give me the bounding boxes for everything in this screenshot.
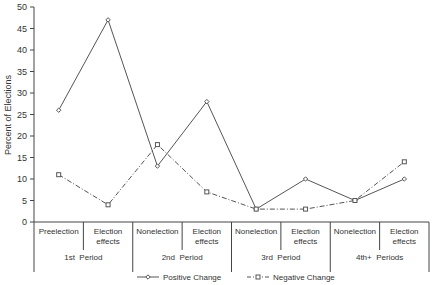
data-point (205, 190, 209, 194)
y-tick-label: 25 (17, 110, 27, 120)
y-tick-label: 35 (17, 67, 27, 77)
data-point (402, 177, 406, 181)
data-point (57, 173, 61, 177)
series-positive-change (56, 18, 406, 212)
legend-item: Positive Change (137, 273, 222, 282)
y-tick-label: 20 (17, 131, 27, 141)
x-tick-label: Nonelection (136, 227, 178, 236)
y-ticks: 05101520253035404550 (17, 2, 34, 227)
legend-label: Negative Change (273, 273, 335, 282)
line-chart: 05101520253035404550 Percent of Election… (0, 0, 432, 285)
data-point (254, 207, 258, 211)
series-negative-change (57, 143, 407, 212)
data-point (303, 177, 307, 181)
series (56, 18, 406, 212)
y-tick-label: 5 (22, 196, 27, 206)
data-point (106, 18, 110, 22)
x-tick-label: effects (195, 237, 218, 246)
data-point (106, 203, 110, 207)
y-tick-label: 0 (22, 217, 27, 227)
axes (34, 7, 429, 222)
legend-item: Negative Change (247, 273, 335, 282)
x-tick-label: Election (193, 227, 221, 236)
y-tick-label: 15 (17, 153, 27, 163)
x-tick-label: Nonelection (334, 227, 376, 236)
data-point (304, 207, 308, 211)
x-tick-label: Election (94, 227, 122, 236)
x-tick-label: effects (393, 237, 416, 246)
y-tick-label: 45 (17, 24, 27, 34)
y-tick-label: 10 (17, 174, 27, 184)
group-label: 2nd Period (162, 253, 203, 262)
x-tick-label: Nonelection (235, 227, 277, 236)
y-tick-label: 40 (17, 45, 27, 55)
series-line (59, 20, 405, 209)
legend: Positive ChangeNegative Change (137, 273, 335, 282)
x-tick-label: Election (390, 227, 418, 236)
data-point (155, 143, 159, 147)
x-tick-label: Preelection (39, 227, 79, 236)
x-tick-label: Election (291, 227, 319, 236)
y-tick-label: 50 (17, 2, 27, 12)
x-tick-label: effects (294, 237, 317, 246)
x-categories: PreelectionElectioneffectsNonelectionEle… (34, 222, 429, 272)
group-label: 1st Period (64, 253, 102, 262)
y-axis-label: Percent of Elections (3, 74, 13, 155)
y-tick-label: 30 (17, 88, 27, 98)
legend-marker (146, 275, 150, 279)
group-label: 3rd Period (261, 253, 300, 262)
data-point (402, 160, 406, 164)
legend-label: Positive Change (163, 273, 222, 282)
legend-marker (256, 275, 260, 279)
data-point (353, 199, 357, 203)
group-label: 4th+ Periods (356, 253, 403, 262)
data-point (56, 108, 60, 112)
x-tick-label: effects (96, 237, 119, 246)
